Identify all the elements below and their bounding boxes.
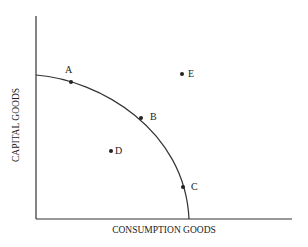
point-c-dot <box>181 185 185 189</box>
y-axis-label: CAPITAL GOODS <box>11 85 21 165</box>
point-a-label: A <box>65 65 72 75</box>
point-e-label: E <box>188 69 194 79</box>
point-c-label: C <box>191 182 198 192</box>
x-axis-label: CONSUMPTION GOODS <box>36 225 292 235</box>
point-b-dot <box>139 116 143 120</box>
point-d-label: D <box>115 146 122 156</box>
ppf-chart <box>0 0 308 247</box>
point-a-dot <box>69 80 73 84</box>
ppf-curve <box>36 75 189 219</box>
point-d-dot <box>109 149 113 153</box>
point-e-dot <box>180 72 184 76</box>
point-b-label: B <box>150 112 157 122</box>
